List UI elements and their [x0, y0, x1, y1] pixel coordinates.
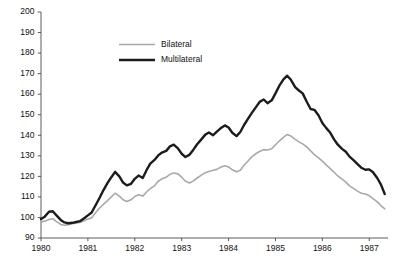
- y-tick-label: 140: [20, 130, 34, 140]
- y-tick-label: 180: [20, 47, 34, 57]
- x-tick-label: 1983: [172, 243, 191, 253]
- chart-legend: BilateralMultilateral: [119, 39, 202, 65]
- legend-label-multilateral: Multilateral: [161, 54, 202, 64]
- x-tick-label: 1986: [313, 243, 332, 253]
- x-tick-label: 1980: [32, 243, 51, 253]
- y-tick-label: 200: [20, 6, 34, 16]
- y-axis-ticks: 90100110120130140150160170180190200: [20, 6, 41, 242]
- series-lines: [41, 76, 385, 226]
- y-tick-label: 190: [20, 27, 34, 37]
- y-tick-label: 150: [20, 109, 34, 119]
- y-tick-label: 110: [21, 191, 35, 201]
- y-tick-label: 90: [25, 232, 35, 242]
- line-chart: 90100110120130140150160170180190200 1980…: [0, 0, 394, 275]
- legend-label-bilateral: Bilateral: [161, 39, 192, 49]
- x-tick-label: 1984: [219, 243, 238, 253]
- y-tick-label: 170: [20, 68, 34, 78]
- x-tick-label: 1985: [266, 243, 285, 253]
- x-tick-label: 1982: [125, 243, 144, 253]
- y-tick-label: 130: [20, 150, 34, 160]
- x-axis-ticks: 19801981198219831984198519861987: [32, 238, 379, 253]
- y-tick-label: 160: [20, 88, 34, 98]
- y-tick-label: 120: [20, 171, 34, 181]
- x-tick-label: 1981: [78, 243, 97, 253]
- y-tick-label: 100: [20, 212, 34, 222]
- series-line-multilateral: [41, 76, 385, 224]
- chart-canvas: 90100110120130140150160170180190200 1980…: [0, 0, 394, 275]
- x-tick-label: 1987: [360, 243, 379, 253]
